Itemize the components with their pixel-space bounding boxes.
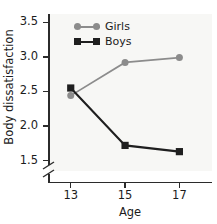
data-point-boys	[176, 148, 183, 155]
chart-figure: 3.53.02.52.01.5 131517 Body dissatisfact…	[0, 0, 217, 224]
legend-label-girls: Girls	[105, 20, 130, 33]
data-point-girls	[67, 92, 74, 99]
legend-marker-girls-left	[74, 23, 81, 30]
legend-marker-boys-right	[93, 38, 100, 45]
data-point-girls	[176, 54, 183, 61]
legend-marker-girls-right	[93, 23, 100, 30]
legend-marker-boys-left	[74, 38, 81, 45]
series-overlay	[0, 0, 217, 224]
data-point-boys	[67, 84, 74, 91]
legend-label-boys: Boys	[105, 35, 132, 48]
data-point-boys	[121, 142, 128, 149]
data-point-girls	[122, 59, 129, 66]
